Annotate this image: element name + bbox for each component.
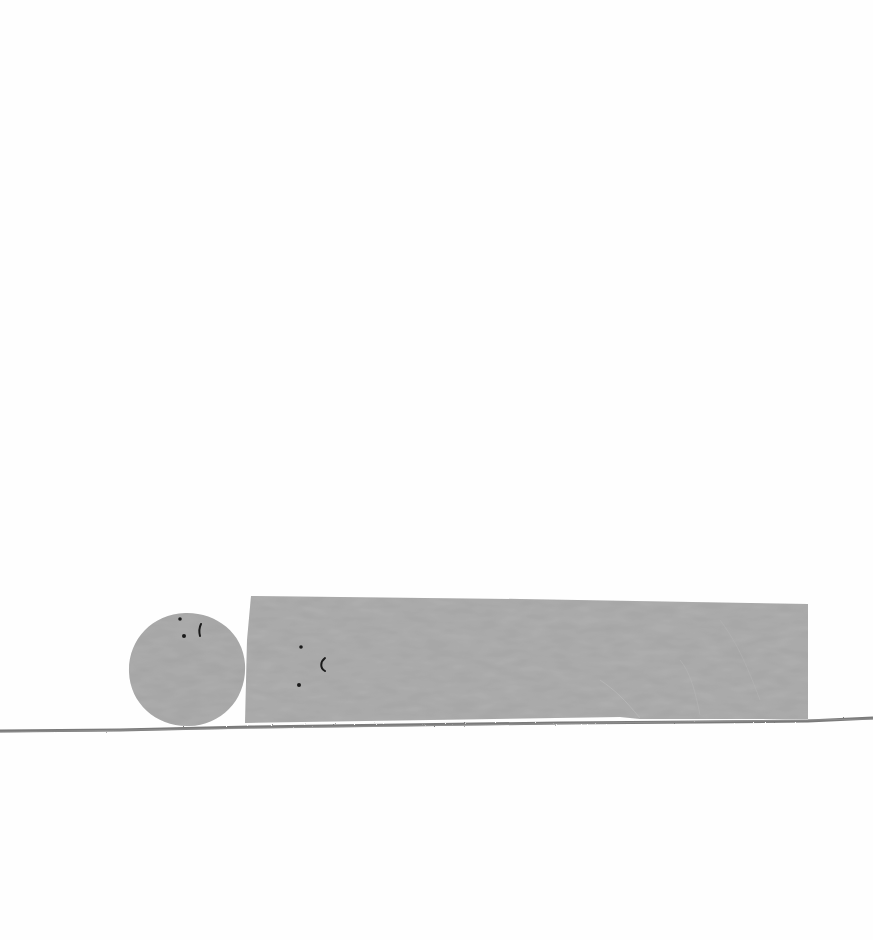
rectangle-body: [245, 596, 808, 723]
illustration-canvas: [0, 0, 873, 940]
rectangle-character: [245, 596, 808, 723]
circle-body: [129, 613, 245, 726]
rectangle-eye-top: [299, 645, 303, 649]
rectangle-eye-bottom: [297, 683, 301, 687]
circle-eye-bottom: [182, 634, 186, 638]
circle-eye-top: [178, 617, 182, 621]
ground-line: [0, 718, 873, 732]
circle-character: [129, 613, 245, 726]
illustration-scene: [0, 0, 873, 940]
